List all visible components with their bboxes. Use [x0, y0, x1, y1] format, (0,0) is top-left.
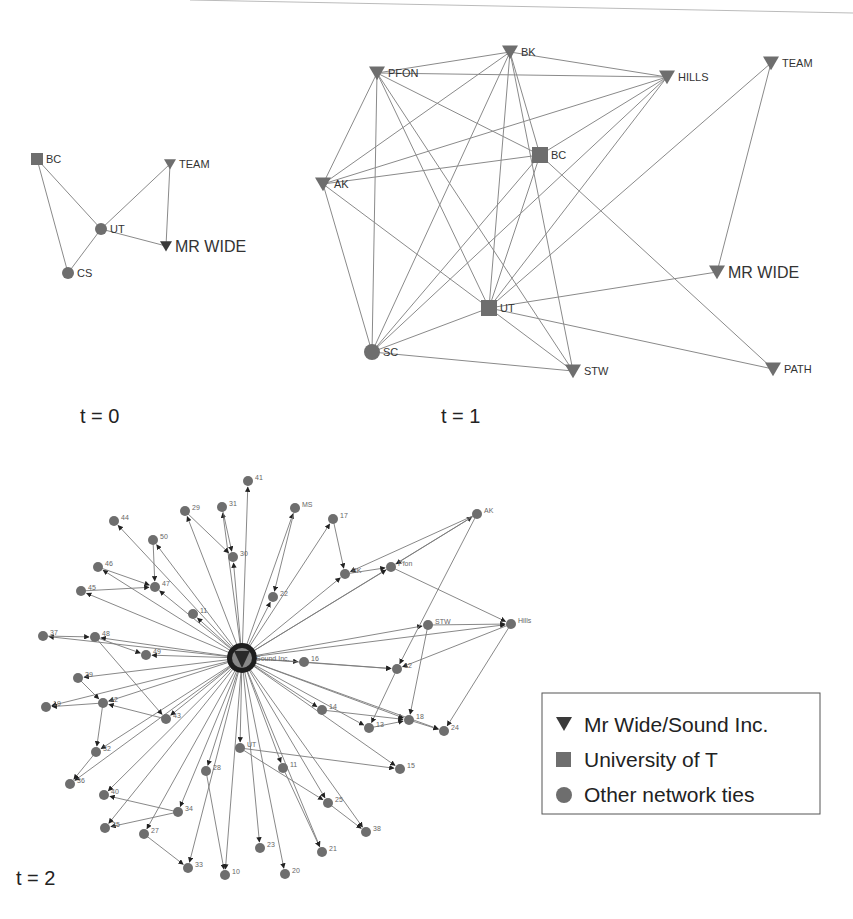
edge-line [377, 73, 489, 308]
triangle-node-icon [315, 178, 331, 192]
network-node: Hills [506, 617, 532, 629]
circle-node-icon [439, 726, 449, 736]
circle-node-icon [364, 723, 374, 733]
node-label: 11 [290, 761, 297, 768]
square-node-icon [31, 153, 43, 165]
network-node: 50 [148, 533, 168, 545]
network-node: 44 [109, 514, 129, 526]
network-node: 49 [141, 648, 161, 660]
circle-node-icon [73, 673, 83, 683]
circle-node-icon [180, 506, 190, 516]
node-label: 18 [416, 713, 424, 720]
circle-node-icon [228, 552, 238, 562]
edge-line [489, 155, 540, 308]
network-node: 12 [392, 662, 412, 674]
node-label: 15 [407, 762, 415, 769]
node-label: 33 [195, 861, 203, 868]
network-node: 46 [93, 560, 113, 572]
edge-arrow [369, 721, 403, 728]
node-label: 12 [404, 662, 412, 669]
edge-line [372, 352, 573, 371]
network-panel-t1: PFONBKHILLSTEAMBCAKUTMR WIDESCSTWPATH [315, 46, 813, 379]
edge-line [323, 73, 377, 184]
network-node: 23 [255, 841, 275, 853]
node-label: 47 [162, 580, 170, 587]
edge-arrow [391, 567, 506, 621]
node-label: 44 [121, 514, 129, 521]
circle-node-icon [188, 609, 198, 619]
edge-line [323, 184, 489, 308]
network-node: 24 [439, 724, 459, 736]
circle-node-icon [340, 569, 350, 579]
edge-arrow [250, 524, 330, 646]
edge-arrow [254, 665, 363, 725]
circle-node-icon [93, 562, 103, 572]
network-node: 32 [91, 745, 111, 757]
legend-label-university: University of T [584, 748, 718, 771]
network-node: 35 [100, 821, 120, 833]
node-label: 48 [102, 630, 110, 637]
circle-node-icon [323, 798, 333, 808]
network-node: AK [472, 507, 494, 519]
edge-arrow [171, 667, 231, 715]
circle-node-icon [472, 509, 482, 519]
panel-label-t1: t = 1 [441, 405, 480, 427]
node-label: TEAM [179, 158, 210, 170]
network-node: MR WIDE [709, 264, 799, 281]
edge-line [510, 52, 540, 155]
circle-node-icon [317, 847, 327, 857]
edge-arrow [101, 638, 228, 656]
circle-node-icon [255, 843, 265, 853]
node-label: 13 [376, 721, 384, 728]
node-label: BC [551, 149, 566, 161]
network-node: 37 [38, 629, 58, 641]
network-node: UT [235, 741, 257, 753]
edge-line [323, 155, 540, 184]
network-node: 31 [217, 500, 237, 512]
network-node: Pfon [386, 560, 413, 572]
network-node: CS [62, 267, 92, 279]
scan-edge-line [190, 0, 853, 13]
node-label: UT [247, 741, 257, 748]
legend-circle-icon [556, 787, 572, 803]
network-node: 25 [323, 796, 343, 808]
edge-arrow [247, 514, 293, 645]
edge-arrow [256, 626, 422, 656]
circle-node-icon [76, 586, 86, 596]
circle-node-icon [278, 763, 288, 773]
node-label: Hills [518, 617, 532, 624]
edge-arrow [447, 624, 511, 726]
edge-arrow [254, 666, 317, 707]
node-label: MR WIDE [175, 238, 246, 255]
node-label: 27 [151, 827, 159, 834]
edge-arrow [208, 671, 238, 765]
node-label: 36 [77, 777, 85, 784]
node-label: 31 [229, 500, 237, 507]
edge-arrow [253, 578, 341, 649]
network-node: 22 [268, 590, 288, 602]
network-figure: BCTEAMUTMR WIDECS PFONBKHILLSTEAMBCAKUTM… [0, 0, 853, 919]
node-label: 45 [88, 584, 96, 591]
circle-node-icon [62, 267, 74, 279]
node-label: PATH [784, 363, 812, 375]
network-node: BC [31, 153, 61, 165]
circle-node-icon [392, 664, 402, 674]
circle-node-icon [150, 582, 160, 592]
network-node: AK [315, 178, 349, 192]
edge-arrow [118, 525, 232, 647]
network-node: 48 [90, 630, 110, 642]
edge-arrow [111, 812, 178, 827]
edge-arrow [400, 514, 477, 664]
node-label: 40 [111, 788, 119, 795]
circle-node-icon [38, 631, 48, 641]
edge-arrow [185, 511, 229, 553]
edge-arrow [74, 752, 96, 779]
edge-arrow [274, 508, 295, 591]
network-node: 21 [317, 845, 337, 857]
edge-arrow [206, 771, 224, 869]
network-node: 34 [173, 805, 193, 817]
circle-node-icon [183, 863, 193, 873]
circle-node-icon [65, 779, 75, 789]
node-label: 10 [232, 868, 240, 875]
edge-line [372, 73, 377, 352]
